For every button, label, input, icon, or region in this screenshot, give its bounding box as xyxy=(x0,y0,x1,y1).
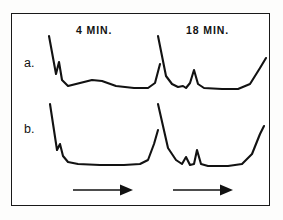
trace-a-left xyxy=(44,34,160,104)
trace-b-right-curve xyxy=(158,104,264,166)
trace-b-left xyxy=(44,100,160,170)
row-label-b: b. xyxy=(24,122,34,136)
trace-a-left-curve xyxy=(49,36,160,88)
trace-b-right xyxy=(150,100,266,170)
chromatogram-figure: 4 MIN. 18 MIN. a. b. xyxy=(0,0,283,220)
flow-direction-arrow-left xyxy=(72,183,134,197)
trace-a-right xyxy=(150,34,266,104)
row-label-a: a. xyxy=(24,56,34,70)
trace-b-left-curve xyxy=(50,104,158,165)
trace-a-right-curve xyxy=(158,36,266,89)
flow-direction-arrow-right xyxy=(172,183,234,197)
